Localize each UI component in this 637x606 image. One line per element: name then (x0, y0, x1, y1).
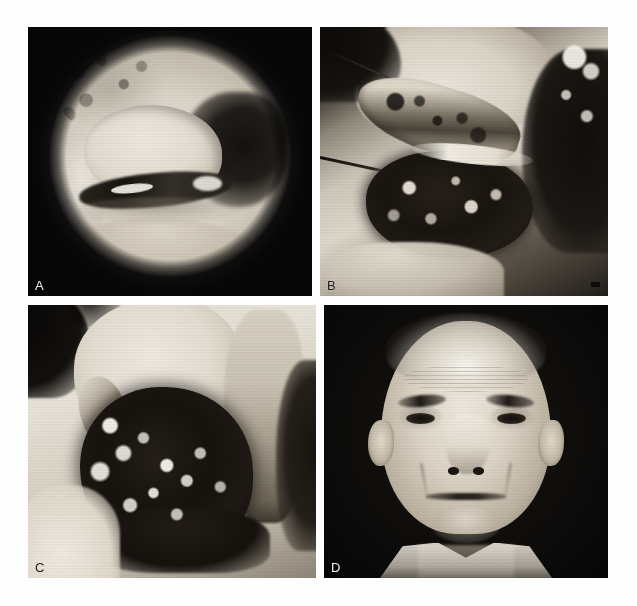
panel-a-endoscopic-image[interactable]: A (28, 27, 312, 296)
panel-label-d: D (331, 561, 341, 574)
nostril-left (448, 467, 459, 474)
panel-label-a: A (35, 279, 44, 292)
chin (432, 507, 500, 542)
nose (446, 414, 489, 474)
surgical-drape-inferior (326, 242, 505, 296)
ear-left (368, 420, 394, 466)
ear-right (538, 420, 564, 466)
scale-bar-marker (591, 282, 600, 287)
nostril-right (473, 467, 484, 474)
mass-bright-flecks (372, 162, 528, 248)
eye-right (497, 413, 525, 424)
panel-label-c: C (35, 561, 45, 574)
figure-plate: A B C (0, 0, 637, 606)
eye-left (406, 413, 434, 424)
panel-label-b: B (327, 279, 336, 292)
mouth (426, 493, 506, 500)
panel-d-patient-portrait-image[interactable]: D (324, 305, 608, 578)
endoscope-vignette (28, 27, 312, 296)
highlight-flecks-right (533, 43, 602, 161)
panel-b-specimen-image[interactable]: B (320, 27, 608, 296)
panel-c-operative-field-image[interactable]: C (28, 305, 316, 578)
